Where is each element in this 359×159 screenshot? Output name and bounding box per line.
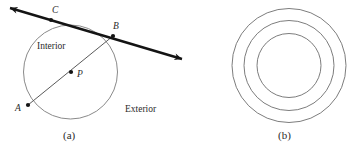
caption-panel-a: (a) bbox=[63, 130, 75, 141]
point-c-marker bbox=[49, 18, 53, 22]
concentric-circle-inner bbox=[257, 34, 321, 98]
secant-line bbox=[10, 8, 182, 59]
point-label-c: C bbox=[52, 6, 58, 16]
caption-panel-b: (b) bbox=[278, 130, 291, 141]
point-p-marker bbox=[69, 70, 73, 74]
figure-container: A B C P Interior Exterior (a) (b) bbox=[0, 0, 359, 159]
panel-b-geometry bbox=[232, 9, 346, 123]
figure-canvas bbox=[0, 0, 359, 159]
region-label-interior: Interior bbox=[37, 42, 66, 52]
point-label-b: B bbox=[113, 22, 119, 32]
region-label-exterior: Exterior bbox=[125, 105, 156, 115]
panel-a-points bbox=[26, 18, 115, 107]
point-label-a: A bbox=[15, 104, 21, 114]
panel-a-geometry bbox=[10, 8, 182, 119]
point-a-marker bbox=[26, 103, 30, 107]
point-b-marker bbox=[111, 34, 115, 38]
concentric-circle-outer bbox=[232, 9, 346, 123]
point-label-p: P bbox=[77, 70, 83, 80]
